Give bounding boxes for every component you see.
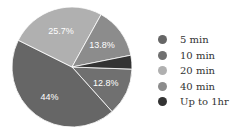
- legend: 5 min 10 min 20 min 40 min Up to 1hr: [158, 32, 229, 110]
- legend-swatch: [158, 35, 167, 44]
- legend-swatch: [158, 51, 167, 60]
- slice-label: 13.8%: [89, 40, 115, 50]
- legend-item-10min: 10 min: [158, 48, 229, 64]
- legend-label: Up to 1hr: [180, 96, 229, 107]
- slice-label: 12.8%: [93, 78, 119, 88]
- slice-label: 25.7%: [48, 26, 74, 36]
- legend-swatch: [158, 97, 167, 106]
- legend-item-20min: 20 min: [158, 63, 229, 79]
- legend-swatch: [158, 66, 167, 75]
- pie-chart: 12.8%44%25.7%13.8%: [0, 0, 150, 134]
- legend-swatch: [158, 82, 167, 91]
- legend-item-up-to-1hr: Up to 1hr: [158, 94, 229, 110]
- slice-label: 44%: [40, 92, 58, 102]
- legend-item-40min: 40 min: [158, 79, 229, 95]
- legend-label: 40 min: [180, 81, 215, 92]
- legend-item-5min: 5 min: [158, 32, 229, 48]
- legend-label: 10 min: [180, 50, 215, 61]
- legend-label: 5 min: [180, 34, 209, 45]
- legend-label: 20 min: [180, 65, 215, 76]
